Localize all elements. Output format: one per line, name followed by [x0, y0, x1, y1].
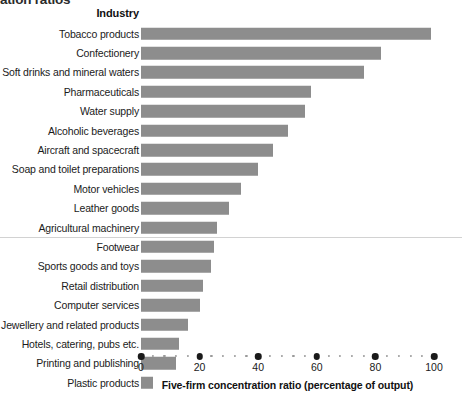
bar [141, 318, 188, 331]
axis-major-tick [372, 353, 379, 360]
bar [141, 338, 179, 351]
bar-row: Agricultural machinery [0, 218, 462, 237]
axis-title: Five-firm concentration ratio (percentag… [141, 379, 434, 391]
value-axis: Five-firm concentration ratio (percentag… [0, 352, 462, 400]
bar-row: Retail distribution [0, 276, 462, 295]
bar [141, 202, 229, 215]
axis-minor-tick [351, 355, 353, 357]
bar [141, 66, 364, 79]
axis-minor-tick [163, 355, 165, 357]
bar-category-label: Soap and toilet preparations [12, 164, 139, 175]
bar-category-label: Motor vehicles [73, 184, 139, 195]
bar [141, 163, 258, 176]
axis-tick-label: 40 [252, 361, 264, 373]
bar-category-label: Agricultural machinery [38, 222, 139, 233]
bar [141, 280, 203, 293]
axis-major-tick [255, 353, 262, 360]
axis-tick-label: 20 [194, 361, 206, 373]
bar [141, 221, 217, 234]
bar [141, 241, 214, 254]
axis-minor-tick [175, 355, 177, 357]
bar [141, 105, 305, 118]
axis-minor-tick [281, 355, 283, 357]
bar-category-label: Soft drinks and mineral waters [2, 67, 139, 78]
bar-row: Tobacco products [0, 24, 462, 43]
group-divider [0, 237, 462, 238]
axis-tick-label: 100 [425, 361, 443, 373]
axis-major-tick [314, 353, 321, 360]
bar-category-label: Alcoholic beverages [48, 125, 139, 136]
bar-category-label: Sports goods and toys [38, 261, 139, 272]
bar-category-label: Pharmaceuticals [64, 87, 139, 98]
bar [141, 260, 211, 273]
bar [141, 144, 273, 157]
bar-category-label: Confectionery [76, 48, 139, 59]
axis-minor-tick [421, 355, 423, 357]
bar-row: Soft drinks and mineral waters [0, 63, 462, 82]
bar-category-label: Leather goods [74, 203, 139, 214]
bar-category-label: Aircraft and spacecraft [37, 145, 139, 156]
axis-tick-label: 60 [311, 361, 323, 373]
bar-chart-plot-area: Tobacco productsConfectionerySoft drinks… [0, 24, 462, 354]
bar-row: Footwear [0, 237, 462, 256]
bar-category-label: Footwear [96, 242, 139, 253]
bar-category-label: Computer services [54, 300, 139, 311]
bar-category-label: Jewellery and related products [1, 319, 139, 330]
bar [141, 124, 288, 137]
axis-minor-tick [222, 355, 224, 357]
bar-row: Motor vehicles [0, 179, 462, 198]
axis-minor-tick [234, 355, 236, 357]
bar [141, 183, 241, 196]
bar [141, 299, 200, 312]
axis-minor-tick [398, 355, 400, 357]
bar-row: Aircraft and spacecraft [0, 140, 462, 159]
axis-minor-tick [152, 355, 154, 357]
bar-row: Water supply [0, 102, 462, 121]
axis-minor-tick [292, 355, 294, 357]
bar-row: Alcoholic beverages [0, 121, 462, 140]
bar-row: Sports goods and toys [0, 257, 462, 276]
bar-category-label: Tobacco products [59, 28, 139, 39]
axis-tick-label: 80 [370, 361, 382, 373]
bar-category-label: Hotels, catering, pubs etc. [22, 339, 139, 350]
bar [141, 86, 311, 99]
axis-minor-tick [187, 355, 189, 357]
bar-category-label: Retail distribution [61, 281, 139, 292]
axis-minor-tick [409, 355, 411, 357]
bar-row: Soap and toilet preparations [0, 160, 462, 179]
axis-major-tick [431, 353, 438, 360]
bar-category-label: Water supply [80, 106, 139, 117]
axis-minor-tick [269, 355, 271, 357]
bar-row: Hotels, catering, pubs etc. [0, 334, 462, 353]
axis-minor-tick [210, 355, 212, 357]
axis-minor-tick [327, 355, 329, 357]
axis-minor-tick [363, 355, 365, 357]
bar [141, 27, 431, 40]
axis-tick-label: 0 [138, 361, 144, 373]
axis-major-tick [196, 353, 203, 360]
bar-row: Computer services [0, 295, 462, 314]
bar-row: Pharmaceuticals [0, 82, 462, 101]
axis-minor-tick [304, 355, 306, 357]
axis-minor-tick [386, 355, 388, 357]
bar-row: Leather goods [0, 199, 462, 218]
bar [141, 47, 381, 60]
axis-minor-tick [339, 355, 341, 357]
axis-major-tick [138, 353, 145, 360]
bar-row: Confectionery [0, 43, 462, 62]
category-axis-header: Industry [0, 7, 139, 19]
axis-minor-tick [245, 355, 247, 357]
bar-row: Jewellery and related products [0, 315, 462, 334]
